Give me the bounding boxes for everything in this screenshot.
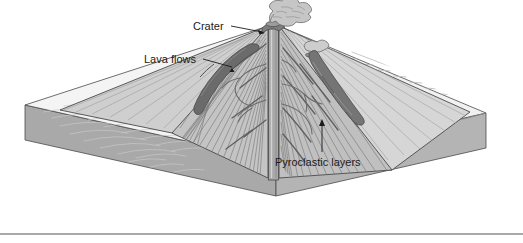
label-lava-flows: Lava flows: [144, 53, 196, 65]
volcano-block-diagram: Crater Lava flows Pyroclastic layers: [0, 0, 523, 243]
figure-root: Crater Lava flows Pyroclastic layers: [0, 0, 523, 243]
label-pyroclastic-layers: Pyroclastic layers: [275, 156, 361, 168]
label-crater: Crater: [193, 20, 224, 32]
